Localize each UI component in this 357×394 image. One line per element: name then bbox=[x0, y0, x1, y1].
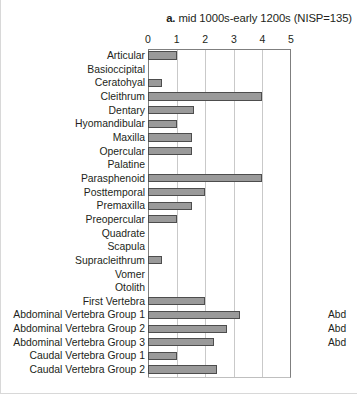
category-label: Quadrate bbox=[102, 227, 145, 241]
chart-title: a. mid 1000s-early 1200s (NISP=135) bbox=[1, 12, 352, 25]
category-label: Supracleithrum bbox=[75, 254, 145, 268]
bar bbox=[148, 215, 177, 223]
x-tick-0: 0 bbox=[145, 33, 151, 46]
bar bbox=[148, 311, 240, 319]
bar bbox=[148, 133, 192, 141]
category-label: Otolith bbox=[115, 281, 145, 295]
bar bbox=[148, 174, 262, 182]
bar-track bbox=[148, 336, 291, 350]
bar bbox=[148, 325, 227, 333]
chart-row: Caudal Vertebra Group 1 bbox=[1, 349, 357, 363]
category-label: Caudal Vertebra Group 2 bbox=[29, 363, 145, 377]
bar-track bbox=[148, 117, 291, 131]
bar-track bbox=[148, 90, 291, 104]
bar-track bbox=[148, 186, 291, 200]
x-tick-1: 1 bbox=[174, 33, 180, 46]
bar-track bbox=[148, 240, 291, 254]
bar-track bbox=[148, 213, 291, 227]
row-annotation: Abd bbox=[328, 322, 346, 336]
chart-row: Posttemporal bbox=[1, 186, 357, 200]
category-label: Scapula bbox=[107, 240, 145, 254]
chart-row: Parasphenoid bbox=[1, 172, 357, 186]
category-label: Palatine bbox=[107, 158, 145, 172]
category-label: Posttemporal bbox=[84, 186, 145, 200]
row-annotation: Abd bbox=[328, 336, 346, 350]
x-tick-5: 5 bbox=[288, 33, 294, 46]
chart-row: Caudal Vertebra Group 2 bbox=[1, 363, 357, 377]
bar-track bbox=[148, 63, 291, 77]
bar-track bbox=[148, 131, 291, 145]
category-label: Premaxilla bbox=[96, 199, 145, 213]
chart-row: Supracleithrum bbox=[1, 254, 357, 268]
bar-track bbox=[148, 268, 291, 282]
chart-row: Scapula bbox=[1, 240, 357, 254]
bar bbox=[148, 365, 217, 373]
chart-row: Basioccipital bbox=[1, 63, 357, 77]
bar bbox=[148, 297, 205, 305]
chart-row: Vomer bbox=[1, 268, 357, 282]
chart-row: Hyomandibular bbox=[1, 117, 357, 131]
bar-track bbox=[148, 349, 291, 363]
bar bbox=[148, 147, 192, 155]
x-tick-2: 2 bbox=[202, 33, 208, 46]
category-label: Abdominal Vertebra Group 3 bbox=[13, 336, 145, 350]
bar bbox=[148, 188, 205, 196]
chart-title-prefix: a. bbox=[166, 12, 175, 24]
chart-row: Abdominal Vertebra Group 2Abd bbox=[1, 322, 357, 336]
row-annotation: Abd bbox=[328, 308, 346, 322]
bar bbox=[148, 92, 262, 100]
chart-row: Cleithrum bbox=[1, 90, 357, 104]
bar-track bbox=[148, 49, 291, 63]
x-tick-4: 4 bbox=[259, 33, 265, 46]
chart-row: Palatine bbox=[1, 158, 357, 172]
bar-track bbox=[148, 145, 291, 159]
chart-figure: a. mid 1000s-early 1200s (NISP=135) 0123… bbox=[0, 0, 357, 394]
chart-row: Premaxilla bbox=[1, 199, 357, 213]
chart-row: Ceratohyal bbox=[1, 76, 357, 90]
bar-track bbox=[148, 158, 291, 172]
chart-row: Abdominal Vertebra Group 1Abd bbox=[1, 308, 357, 322]
category-label: Caudal Vertebra Group 1 bbox=[29, 349, 145, 363]
chart-row: Otolith bbox=[1, 281, 357, 295]
chart-row: First Vertebra bbox=[1, 295, 357, 309]
bar-track bbox=[148, 172, 291, 186]
bar bbox=[148, 120, 177, 128]
category-label: First Vertebra bbox=[83, 295, 145, 309]
chart-row: Preopercular bbox=[1, 213, 357, 227]
category-label: Parasphenoid bbox=[81, 172, 145, 186]
chart-title-rest: mid 1000s-early 1200s (NISP=135) bbox=[175, 12, 352, 24]
bar bbox=[148, 79, 162, 87]
chart-row: Maxilla bbox=[1, 131, 357, 145]
bar bbox=[148, 256, 162, 264]
category-label: Abdominal Vertebra Group 1 bbox=[13, 308, 145, 322]
category-label: Cleithrum bbox=[101, 90, 145, 104]
bar bbox=[148, 202, 192, 210]
bar-track bbox=[148, 254, 291, 268]
category-label: Vomer bbox=[115, 268, 145, 282]
bar-track bbox=[148, 104, 291, 118]
x-tick-3: 3 bbox=[231, 33, 237, 46]
category-label: Maxilla bbox=[113, 131, 145, 145]
category-label: Abdominal Vertebra Group 2 bbox=[13, 322, 145, 336]
bar-track bbox=[148, 227, 291, 241]
chart-row: Abdominal Vertebra Group 3Abd bbox=[1, 336, 357, 350]
bar bbox=[148, 338, 214, 346]
bar bbox=[148, 352, 177, 360]
bar bbox=[148, 51, 177, 59]
category-label: Opercular bbox=[99, 145, 145, 159]
category-label: Ceratohyal bbox=[95, 76, 145, 90]
category-label: Preopercular bbox=[86, 213, 146, 227]
bar bbox=[148, 106, 194, 114]
x-axis-tick-labels: 012345 bbox=[148, 33, 291, 47]
bar-track bbox=[148, 76, 291, 90]
bar-track bbox=[148, 322, 291, 336]
bar-track bbox=[148, 199, 291, 213]
category-label: Articular bbox=[107, 49, 145, 63]
category-label: Dentary bbox=[109, 104, 145, 118]
bar-track bbox=[148, 281, 291, 295]
chart-row: Dentary bbox=[1, 104, 357, 118]
chart-row: Quadrate bbox=[1, 227, 357, 241]
category-label: Basioccipital bbox=[87, 63, 145, 77]
bar-rows: ArticularBasioccipitalCeratohyalCleithru… bbox=[1, 49, 357, 377]
category-label: Hyomandibular bbox=[75, 117, 145, 131]
